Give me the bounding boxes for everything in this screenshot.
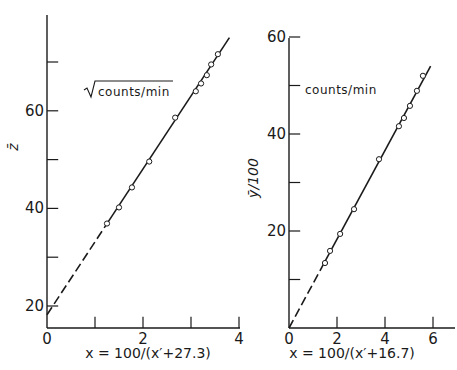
data-point-open-circle	[129, 185, 134, 190]
data-point-open-circle	[322, 260, 327, 265]
fit-line-extrapolated-dashed	[289, 261, 325, 328]
data-point-open-circle	[420, 73, 425, 78]
x-tick-label: 4	[234, 330, 244, 348]
y-tick-label: 60	[267, 28, 286, 46]
data-point-open-circle	[198, 81, 203, 86]
y-tick-label: 60	[25, 102, 44, 120]
left-plot-z-vs-x: 204060024counts/minz̄x = 100/(x′+27.3)	[5, 15, 244, 361]
y-axis-label: z̄	[5, 143, 21, 152]
y-tick-label: 20	[267, 222, 286, 240]
right-plot-y-vs-x: 2040600246counts/minȳ/100x = 100/(x′+16.…	[245, 28, 455, 361]
data-point-open-circle	[147, 159, 152, 164]
y-tick-label: 40	[25, 199, 44, 217]
data-point-open-circle	[351, 207, 356, 212]
data-point-open-circle	[209, 62, 214, 67]
data-point-open-circle	[401, 115, 406, 120]
fit-line-extrapolated-dashed	[47, 224, 107, 315]
y-tick-label: 20	[25, 297, 44, 315]
data-point-open-circle	[376, 157, 381, 162]
data-point-open-circle	[338, 231, 343, 236]
y-axis-label: ȳ/100	[245, 158, 261, 199]
units-annotation: counts/min	[305, 83, 377, 97]
data-point-open-circle	[193, 89, 198, 94]
data-point-open-circle	[173, 115, 178, 120]
y-tick-label: 40	[267, 125, 286, 143]
data-point-open-circle	[414, 88, 419, 93]
units-annotation: counts/min	[98, 85, 170, 99]
data-point-open-circle	[327, 248, 332, 253]
data-point-open-circle	[396, 124, 401, 129]
data-point-open-circle	[204, 73, 209, 78]
data-point-open-circle	[104, 221, 109, 226]
data-point-open-circle	[407, 103, 412, 108]
data-point-open-circle	[215, 52, 220, 57]
x-axis-label: x = 100/(x′+16.7)	[289, 345, 415, 361]
x-tick-label: 6	[428, 330, 438, 348]
chart-figure: 204060024counts/minz̄x = 100/(x′+27.3) 2…	[0, 0, 457, 370]
x-tick-label: 0	[42, 330, 52, 348]
data-point-open-circle	[116, 205, 121, 210]
x-axis-label: x = 100/(x′+27.3)	[85, 345, 211, 361]
